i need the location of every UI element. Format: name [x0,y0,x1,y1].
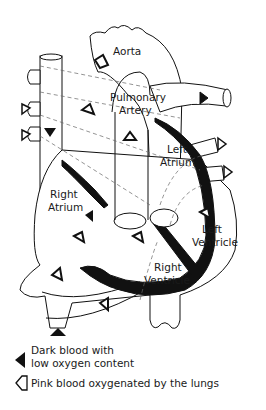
legend-dark-arrow-icon [15,352,25,368]
label-aorta: Aorta [113,45,141,57]
legend: Dark blood with low oxygen content Pink … [15,344,219,390]
label-left-atrium-1: Left [167,143,187,155]
arrow-pink-right-2 [224,166,232,178]
arrow-pink-center [124,132,136,140]
legend-pink-text: Pink blood oxygenated by the lungs [31,377,219,389]
valve-right [150,209,178,227]
legend-dark-text-2: low oxygen content [31,357,134,369]
label-left-ventricle-1: Left [202,223,222,235]
legend-pink-arrow-icon [16,376,27,390]
label-right-atrium-2: Atrium [48,201,83,213]
label-left-ventricle-2: Ventricle [192,236,238,248]
label-left-atrium-2: Atrium [160,156,195,168]
label-right-ventricle-1: Right [154,261,182,273]
vena-cava-top [40,54,62,60]
pulmonary-artery-opening [223,89,231,107]
arrow-dark-bottom [50,328,66,336]
heart-diagram: Aorta Pulmonary Artery Left Atrium Right… [0,0,266,410]
label-right-atrium-1: Right [50,188,78,200]
legend-dark-text-1: Dark blood with [31,344,114,356]
valve-left [114,213,146,229]
vessel-stub-1 [28,70,41,84]
arrow-pink-aorta-2 [82,104,94,114]
arrow-pink-right-1 [218,138,226,150]
label-pulmonary-artery-2: Artery [119,104,152,116]
label-right-ventricle-2: Ventricle [144,274,190,286]
label-pulmonary-artery-1: Pulmonary [110,91,166,103]
